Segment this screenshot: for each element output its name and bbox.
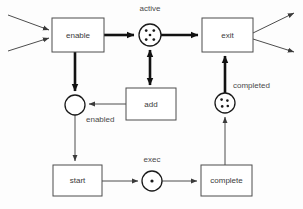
transition-exit-label: exit xyxy=(221,31,234,40)
transition-enable[interactable]: enable xyxy=(52,18,104,52)
transition-start-label: start xyxy=(70,176,86,185)
place-enabled-label: enabled xyxy=(86,115,114,124)
arc-in-lower-to-enable xyxy=(8,38,49,51)
transition-add-label: add xyxy=(144,100,157,109)
arc-exit-out-lower xyxy=(253,39,294,52)
place-active-label: active xyxy=(140,4,161,13)
place-exec[interactable] xyxy=(142,171,162,191)
transition-complete[interactable]: complete xyxy=(201,165,252,196)
petri-net-diagram: enable exit add start complete xyxy=(0,0,303,209)
arc-exit-out-upper xyxy=(253,13,294,33)
place-enabled[interactable] xyxy=(65,95,85,115)
transition-exit[interactable]: exit xyxy=(202,18,253,52)
place-exec-tokens xyxy=(150,179,153,182)
place-exec-label: exec xyxy=(144,155,161,164)
petri-net-canvas: enable exit add start complete xyxy=(0,0,303,209)
transition-enable-label: enable xyxy=(66,31,91,40)
arc-in-upper-to-enable xyxy=(8,15,49,30)
transition-start[interactable]: start xyxy=(53,165,102,196)
place-completed-label: completed xyxy=(233,81,270,90)
transition-complete-label: complete xyxy=(210,176,243,185)
place-completed[interactable] xyxy=(215,93,235,113)
transition-add[interactable]: add xyxy=(126,88,176,120)
place-active[interactable] xyxy=(139,24,161,46)
